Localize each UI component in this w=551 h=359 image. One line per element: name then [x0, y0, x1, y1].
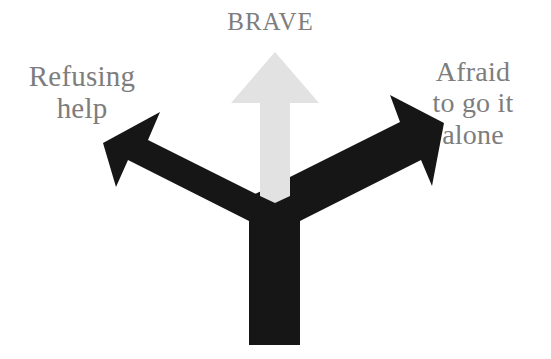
label-brave: BRAVE	[188, 8, 353, 36]
label-afraid-to-go-it-alone: Afraid to go it alone	[398, 56, 548, 150]
label-refusing-help: Refusing help	[2, 60, 162, 125]
arrow-graphic	[0, 0, 551, 359]
arrow-diagram-figure: BRAVE Refusing help Afraid to go it alon…	[0, 0, 551, 359]
